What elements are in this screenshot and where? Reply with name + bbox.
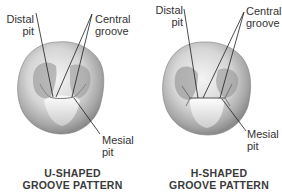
u-distal-label-line2: pit [6,25,34,37]
u-central-label-line2: groove [95,25,130,37]
h-shaped-tooth [163,42,251,135]
h-caption-line2: GROOVE PATTERN [154,179,282,191]
h-distal-label-line2: pit [151,16,183,28]
u-caption-line2: GROOVE PATTERN [0,179,145,191]
u-shaped-tooth [18,42,104,134]
h-shaped-caption: H-SHAPED GROOVE PATTERN [154,167,282,191]
h-caption-line1: H-SHAPED [154,167,282,179]
u-central-groove-label: Central groove [95,13,130,37]
u-central-label-line1: Central [95,13,130,25]
h-mesial-pit-label: Mesial pit [247,128,279,152]
u-caption-line1: U-SHAPED [0,167,145,179]
u-distal-pit-label: Distal pit [6,13,34,37]
h-central-groove-label: Central groove [246,5,281,29]
u-mesial-pit-label: Mesial pit [102,134,134,158]
u-shaped-caption: U-SHAPED GROOVE PATTERN [0,167,145,191]
h-mesial-label-line2: pit [247,140,279,152]
h-distal-label-line1: Distal [151,4,183,16]
h-mesial-label-line1: Mesial [247,128,279,140]
u-mesial-label-line2: pit [102,146,134,158]
tooth-illustrations [0,0,282,194]
h-distal-pit-label: Distal pit [151,4,183,28]
u-distal-label-line1: Distal [6,13,34,25]
h-central-label-line1: Central [246,5,281,17]
u-mesial-label-line1: Mesial [102,134,134,146]
h-central-label-line2: groove [246,17,281,29]
groove-pattern-figure: Distal pit Central groove Mesial pit U-S… [0,0,282,194]
